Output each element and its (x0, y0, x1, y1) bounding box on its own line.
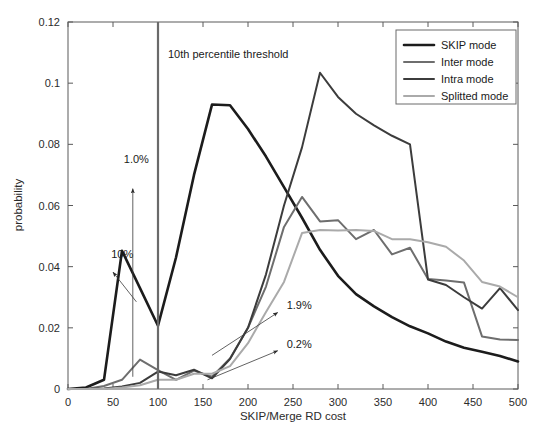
y-tick-label: 0.04 (39, 261, 60, 273)
threshold-label: 10th percentile threshold (168, 48, 288, 60)
x-tick-label: 50 (107, 396, 119, 408)
y-tick-label: 0.08 (39, 138, 60, 150)
x-tick-label: 200 (239, 396, 257, 408)
annotation-label-10: 1.0% (124, 153, 149, 165)
y-tick-label: 0.1 (45, 77, 60, 89)
y-tick-label: 0 (54, 383, 60, 395)
x-axis-title: SKIP/Merge RD cost (240, 410, 347, 422)
y-tick-label: 0.06 (39, 200, 60, 212)
chart-figure: 050100150200250300350400450500 00.020.04… (0, 0, 547, 442)
chart-legend[interactable]: SKIP modeInter modeIntra modeSplitted mo… (396, 30, 516, 104)
annotation-label-02: 0.2% (287, 338, 312, 350)
annotation-label-10: 10% (111, 248, 133, 260)
x-tick-label: 150 (194, 396, 212, 408)
x-tick-label: 500 (509, 396, 527, 408)
legend-label-intra-mode: Intra mode (441, 73, 494, 85)
legend-label-inter-mode: Inter mode (441, 56, 494, 68)
x-tick-label: 450 (464, 396, 482, 408)
x-tick-label: 350 (374, 396, 392, 408)
probability-distribution-chart: 050100150200250300350400450500 00.020.04… (0, 0, 547, 442)
x-tick-label: 0 (65, 396, 71, 408)
x-tick-label: 250 (284, 396, 302, 408)
x-tick-label: 100 (149, 396, 167, 408)
y-tick-label: 0.02 (39, 322, 60, 334)
y-axis-title: probability (12, 179, 24, 232)
legend-label-skip-mode: SKIP mode (441, 39, 496, 51)
annotation-label-19: 1.9% (287, 299, 312, 311)
x-tick-label: 300 (329, 396, 347, 408)
x-tick-label: 400 (419, 396, 437, 408)
y-tick-label: 0.12 (39, 16, 60, 28)
legend-label-splitted-mode: Splitted mode (441, 90, 508, 102)
